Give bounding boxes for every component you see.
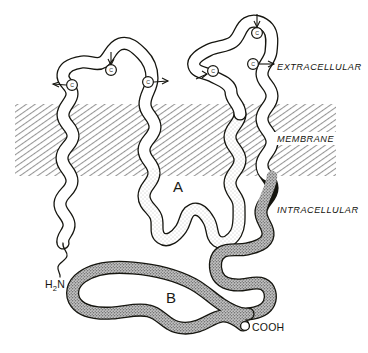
membrane-label-group: MEMBRANE <box>274 132 337 145</box>
glyco-site-label: C <box>211 68 215 74</box>
glyco-site-label: C <box>255 30 259 36</box>
glyco-site-label: C <box>109 67 113 73</box>
intracellular-label: INTRACELLULAR <box>277 205 359 215</box>
diagram-canvas: C C C C C <box>0 0 368 353</box>
extracellular-label: EXTRACELLULAR <box>277 62 362 72</box>
transmembrane-protein-diagram: C C C C C <box>0 0 368 353</box>
glyco-site-label: C <box>251 61 255 67</box>
membrane-label: MEMBRANE <box>277 134 334 144</box>
n-terminus-h: H <box>45 278 53 290</box>
domain-a-label: A <box>173 178 183 195</box>
glyco-site-label: C <box>146 79 150 85</box>
domain-b-label: B <box>166 289 176 306</box>
diagram-background <box>0 0 368 353</box>
n-terminus-n: N <box>57 278 65 290</box>
c-terminus-label: COOH <box>252 321 284 333</box>
c-terminus-cap <box>241 322 250 331</box>
glyco-site-label: C <box>70 82 74 88</box>
